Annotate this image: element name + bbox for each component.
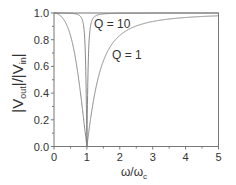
y-tick-label: 0.2 [34,114,49,126]
plot-curves [54,13,219,147]
y-axis-label: |Vout|/|Vin| [9,53,28,112]
curve-q1 [54,13,219,147]
x-tick-label: 5 [215,151,221,163]
y-label-part: |V [9,99,26,113]
y-tick-label: 0.4 [34,87,49,99]
x-tick-label: 1 [84,151,90,163]
x-tick-label: 3 [150,151,156,163]
annotation-q1: Q = 1 [112,48,142,62]
annotation-q10: Q = 10 [94,17,131,31]
y-label-part: | [9,53,26,57]
y-label-subscript-in: in [18,57,28,64]
x-tick-label: 2 [117,151,123,163]
y-axis-ticks: 0.00.20.40.60.81.0 [34,7,54,153]
notch-filter-chart: 012345 0.00.20.40.60.81.0 Q = 10 Q = 1 ω… [0,0,236,185]
x-axis-label-subscript: c [143,172,147,181]
y-tick-label: 1.0 [34,7,49,19]
x-axis-ticks: 012345 [51,147,222,163]
x-tick-label: 4 [183,151,189,163]
y-tick-label: 0.6 [34,60,49,72]
y-tick-label: 0.8 [34,34,49,46]
x-tick-label: 0 [51,151,57,163]
y-label-subscript-out: out [18,86,28,99]
x-axis-label: ω/ωc [121,165,147,181]
y-label-part: |/|V [9,64,26,86]
x-axis-label-main: ω/ω [121,165,143,179]
y-tick-label: 0.0 [34,141,49,153]
